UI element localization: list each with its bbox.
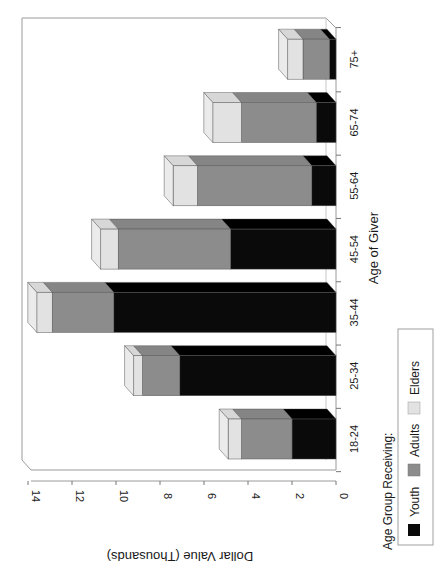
segment-elders (288, 39, 303, 79)
bar-18-24 (219, 409, 336, 459)
value-tick-label: 14 (30, 490, 42, 502)
category-label: 75+ (348, 50, 360, 69)
legend-swatch-elders (408, 402, 420, 414)
bar-45-54 (92, 219, 336, 269)
stacked-bar-chart: 02468101214 18-2425-3435-4445-5455-6465-… (0, 0, 448, 579)
segment-adults (197, 166, 311, 206)
legend-label-adults: Adults (408, 424, 422, 457)
segment-top-youth (171, 346, 336, 356)
segment-youth (292, 419, 336, 459)
category-label: 55-64 (348, 172, 360, 200)
segment-adults (142, 356, 179, 396)
bar-65-74 (204, 93, 336, 143)
segment-elders (173, 166, 197, 206)
segment-youth (329, 39, 336, 79)
category-label: 45-54 (348, 235, 360, 263)
legend-label-youth: Youth (408, 487, 422, 517)
segment-adults (241, 103, 316, 143)
bar-35-44 (28, 282, 336, 332)
segment-youth (230, 229, 336, 269)
category-label: 35-44 (348, 298, 360, 326)
category-label: 18-24 (348, 425, 360, 453)
value-tick-label: 4 (250, 493, 262, 499)
segment-top-youth (221, 219, 336, 229)
category-label: 65-74 (348, 108, 360, 136)
value-tick-label: 0 (338, 493, 350, 499)
segment-youth (312, 166, 336, 206)
legend-title: Age Group Receiving: (381, 433, 395, 550)
legend: Age Group Receiving: Youth Adults Elders (381, 329, 433, 550)
segment-top-adults (43, 282, 114, 292)
segment-youth (114, 292, 336, 332)
value-tick-label: 2 (294, 493, 306, 499)
segment-adults (241, 419, 292, 459)
legend-swatch-youth (408, 524, 420, 536)
segment-youth (180, 356, 336, 396)
segment-top-adults (188, 156, 311, 166)
value-axis-ticks: 02468101214 (28, 481, 350, 502)
segment-top-youth (283, 409, 336, 419)
segment-top-adults (232, 409, 292, 419)
bar-75+ (279, 29, 336, 79)
segment-elders (37, 292, 52, 332)
segment-adults (118, 229, 230, 269)
category-label: 25-34 (348, 362, 360, 390)
segment-elders (213, 103, 242, 143)
value-tick-label: 6 (206, 493, 218, 499)
value-tick-label: 8 (162, 493, 174, 499)
value-axis-title: Dollar Value (Thousands) (107, 549, 253, 564)
segment-adults (52, 292, 114, 332)
value-tick-label: 10 (118, 490, 130, 502)
category-axis-title: Age of Giver (366, 211, 381, 284)
segment-top-youth (105, 282, 336, 292)
value-tick-label: 12 (74, 490, 86, 502)
segment-top-adults (232, 93, 316, 103)
segment-elders (101, 229, 119, 269)
legend-swatch-adults (408, 464, 420, 476)
segment-elders (228, 419, 241, 459)
segment-youth (316, 103, 336, 143)
legend-label-elders: Elders (408, 361, 422, 395)
segment-elders (134, 356, 143, 396)
bar-55-64 (164, 156, 336, 206)
segment-top-adults (109, 219, 230, 229)
bar-25-34 (125, 346, 336, 396)
segment-adults (303, 39, 329, 79)
category-axis-ticks: 18-2425-3435-4445-5455-6465-7475+ (336, 28, 360, 472)
bars-group (28, 29, 336, 459)
